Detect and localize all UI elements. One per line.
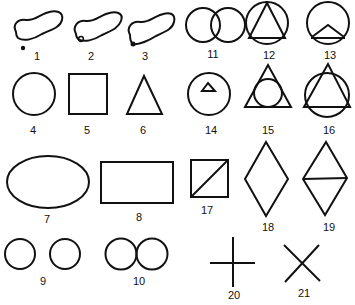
shape-9: 9 xyxy=(5,239,80,287)
shape-12: 12 xyxy=(246,2,288,61)
shape-label: 20 xyxy=(228,289,240,301)
inscribed-triangle xyxy=(249,3,285,38)
circle-left xyxy=(5,239,35,269)
shape-label: 8 xyxy=(136,211,142,223)
shape-label: 14 xyxy=(205,124,217,136)
shape-7: 7 xyxy=(7,156,89,225)
circle xyxy=(13,73,55,115)
shape-label: 17 xyxy=(201,204,213,216)
diamond xyxy=(245,142,288,216)
shape-18: 18 xyxy=(245,142,288,233)
shape-15: 15 xyxy=(245,65,291,136)
dot-on-edge xyxy=(131,42,136,47)
shape-label: 21 xyxy=(298,287,310,299)
shape-16: 16 xyxy=(304,64,350,136)
shape-label: 19 xyxy=(323,221,335,233)
blob-outline xyxy=(15,11,63,40)
chevron xyxy=(312,25,344,37)
shape-20: 20 xyxy=(210,237,255,301)
shape-2: 2 xyxy=(75,12,122,62)
shape-1: 1 xyxy=(15,11,63,62)
shapes-figure: 1 2 3 11 12 13 4 5 xyxy=(0,0,355,305)
shape-8: 8 xyxy=(101,162,173,223)
shape-label: 18 xyxy=(262,221,274,233)
circle-right xyxy=(50,239,80,269)
shape-label: 13 xyxy=(324,49,336,61)
shape-label: 7 xyxy=(44,213,50,225)
outer-circle xyxy=(188,73,230,115)
shape-5: 5 xyxy=(69,74,107,136)
shape-11: 11 xyxy=(186,8,245,60)
shape-4: 4 xyxy=(13,73,55,136)
shape-17: 17 xyxy=(191,160,228,216)
shape-13: 13 xyxy=(307,2,349,61)
shape-label: 6 xyxy=(140,124,146,136)
rectangle xyxy=(101,162,173,203)
shape-14: 14 xyxy=(188,73,230,136)
shape-10: 10 xyxy=(106,239,168,288)
diagonal-line xyxy=(191,160,228,197)
outer-triangle xyxy=(245,65,291,107)
overlapping-triangle xyxy=(304,64,350,107)
shape-label: 12 xyxy=(263,49,275,61)
circle-left xyxy=(106,239,137,270)
shape-19: 19 xyxy=(303,142,347,233)
inscribed-circle xyxy=(254,79,282,107)
shape-label: 15 xyxy=(262,124,274,136)
shape-label: 10 xyxy=(133,275,145,287)
shape-3: 3 xyxy=(129,13,175,62)
circle-right xyxy=(137,239,168,270)
shape-label: 9 xyxy=(40,275,46,287)
dot-outside xyxy=(21,46,25,50)
shape-label: 1 xyxy=(34,50,40,62)
shape-label: 2 xyxy=(88,50,94,62)
circle-inside xyxy=(79,37,84,42)
circle-right xyxy=(211,8,245,42)
small-triangle xyxy=(202,83,215,91)
shape-6: 6 xyxy=(127,76,162,136)
shape-21: 21 xyxy=(284,245,320,299)
shape-label: 11 xyxy=(207,48,218,60)
square xyxy=(69,74,107,114)
shape-label: 5 xyxy=(84,124,90,136)
shape-label: 3 xyxy=(142,50,148,62)
triangle xyxy=(127,76,162,114)
ellipse xyxy=(7,156,89,208)
horizontal-line xyxy=(303,178,347,179)
shape-label: 16 xyxy=(323,124,335,136)
blob-outline xyxy=(129,13,175,44)
shape-label: 4 xyxy=(30,124,36,136)
